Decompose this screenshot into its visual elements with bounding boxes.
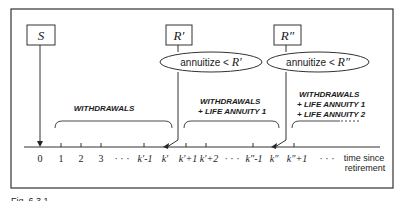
svg-text:annuitize < R″: annuitize < R″ — [286, 55, 351, 69]
tick-label: k″-1 — [246, 153, 263, 164]
tick-label: 2 — [79, 153, 84, 164]
tick-label: k′-1 — [138, 153, 153, 164]
decision-1-arrowhead-icon — [163, 143, 169, 149]
axis-ellipsis: · · · — [225, 153, 240, 164]
phase-3-brace — [292, 121, 340, 128]
phase-2-line-1: WITHDRAWALS — [200, 97, 261, 106]
threshold-box-r1: R′ — [166, 25, 192, 45]
tick-label: k″ — [270, 153, 279, 164]
axis-title-line-1: time since — [344, 153, 385, 163]
retirement-annuitization-diagram: S R′ annuitize < R′ R″ annuitize < R″ WI… — [0, 0, 403, 201]
phase-3-line-3: + LIFE ANNUITY 2 — [297, 110, 366, 119]
start-arrowhead-icon — [37, 141, 43, 147]
start-box-s: S — [27, 25, 55, 45]
tick-label: 1 — [59, 153, 64, 164]
tick-label: k′+1 — [179, 153, 197, 164]
tick-label: 3 — [99, 153, 104, 164]
phase-3-line-1: WITHDRAWALS — [299, 90, 360, 99]
decision-1-text: annuitize < — [180, 57, 231, 68]
decision-1-var: R′ — [231, 55, 242, 69]
svg-text:annuitize < R′: annuitize < R′ — [180, 55, 242, 69]
decision-2-var: R″ — [337, 55, 351, 69]
decision-2-connector — [275, 72, 286, 147]
axis-ticks — [61, 143, 294, 147]
decision-ellipse-2: annuitize < R″ — [267, 52, 369, 72]
decision-1-connector — [167, 72, 178, 147]
decision-2-text: annuitize < — [286, 57, 337, 68]
axis-ellipsis: · · · — [320, 153, 335, 164]
phase-3-line-2: + LIFE ANNUITY 1 — [297, 100, 366, 109]
axis-ellipsis: · · · — [115, 153, 130, 164]
decision-ellipse-1: annuitize < R′ — [160, 52, 262, 72]
phase-1-label: WITHDRAWALS — [74, 104, 135, 113]
tick-label: k″+1 — [287, 153, 307, 164]
threshold-box-r2: R″ — [274, 25, 301, 45]
tick-label: k′ — [162, 153, 169, 164]
decision-2-arrowhead-icon — [271, 143, 277, 149]
tick-label: 0 — [38, 153, 43, 164]
phase-1-brace — [55, 121, 172, 128]
tick-label: k′+2 — [200, 153, 218, 164]
threshold-box-r2-label: R″ — [280, 28, 295, 43]
axis-title-line-2: retirement — [345, 163, 386, 173]
phase-2-brace — [184, 121, 279, 128]
start-box-label: S — [38, 28, 45, 43]
threshold-box-r1-label: R′ — [173, 28, 185, 43]
phase-2-line-2: + LIFE ANNUITY 1 — [198, 107, 267, 116]
figure-caption: Fig. 6.3.1 — [11, 196, 49, 201]
